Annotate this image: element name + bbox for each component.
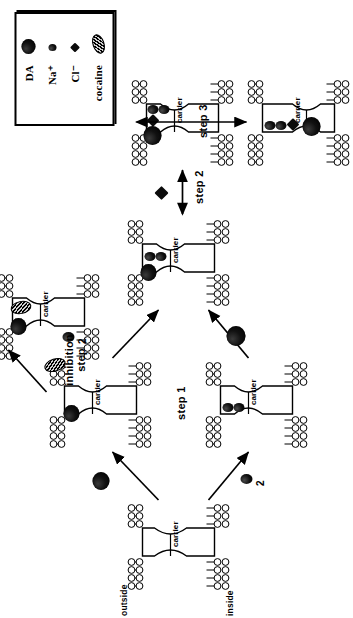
bound-na-2 — [275, 121, 286, 130]
outside-label: outside — [118, 584, 128, 616]
legend-label-cl: Cl⁻ — [68, 57, 81, 121]
figure-canvas: DA Na⁺ Cl⁻ cocaine — [0, 0, 353, 618]
bound-da — [63, 405, 79, 422]
bound-na-1 — [147, 105, 158, 114]
bound-da — [143, 126, 161, 145]
carrier-label: carrier — [170, 521, 179, 547]
free-da-upper-left — [92, 472, 109, 490]
bound-na-2 — [158, 105, 169, 114]
inside-label: inside — [224, 590, 234, 616]
legend-box: DA Na⁺ Cl⁻ cocaine — [14, 12, 114, 126]
inhibition-line-2: step — [74, 324, 86, 396]
bound-da — [140, 264, 156, 281]
bound-da — [302, 117, 320, 136]
step-2-label: step 2 — [192, 170, 204, 204]
da-icon — [18, 17, 38, 57]
carrier-label: carrier — [174, 97, 183, 123]
free-cl — [154, 186, 168, 200]
bound-na-2 — [233, 403, 244, 412]
legend-item-cocaine: cocaine — [87, 17, 107, 121]
step-3-label: step 3 — [196, 104, 208, 138]
na-count-lower: 2 — [254, 480, 265, 486]
membrane-na-bound — [204, 362, 308, 448]
state-empty-carrier: carrier — [126, 504, 230, 590]
inhibition-step-label: inhibition step — [62, 324, 86, 396]
state-na-bound: carrier — [204, 362, 308, 448]
carrier-label: carrier — [248, 379, 257, 405]
carrier-label: carrier — [40, 291, 49, 317]
membrane-da-na-bound — [126, 220, 230, 306]
carrier-label: carrier — [92, 379, 101, 405]
legend-label-na: Na⁺ — [45, 57, 58, 121]
state-translocated: carrier — [246, 80, 350, 166]
bound-da — [10, 318, 26, 335]
bound-na-2 — [155, 252, 166, 261]
legend-item-na: Na⁺ — [41, 17, 61, 121]
free-da-lower-right — [226, 326, 245, 346]
bound-na-1 — [222, 403, 233, 412]
bound-na-1 — [264, 121, 275, 130]
step-1-label: step 1 — [174, 386, 186, 420]
arrow-da-to-dana — [112, 310, 158, 358]
carrier-label: carrier — [170, 237, 179, 263]
membrane-da-na-cl-bound — [130, 80, 234, 166]
arrow-origin-to-da — [112, 452, 158, 500]
state-da-na-cl-bound: carrier — [130, 80, 234, 166]
membrane-empty-carrier — [126, 504, 230, 590]
cocaine-icon — [87, 17, 107, 57]
legend-label-cocaine: cocaine — [91, 57, 103, 121]
state-da-na-bound: carrier — [126, 220, 230, 306]
legend-item-da: DA — [18, 17, 38, 121]
legend-item-cl: Cl⁻ — [64, 17, 84, 121]
sodium-icon — [41, 17, 61, 57]
dopamine-transporter-diagram: DA Na⁺ Cl⁻ cocaine — [0, 0, 353, 618]
bound-na-1 — [144, 252, 155, 261]
legend-label-da: DA — [22, 57, 34, 121]
inhibition-line-1: inhibition — [62, 324, 74, 396]
chloride-icon — [64, 17, 84, 57]
free-na-lower-left — [240, 474, 252, 484]
